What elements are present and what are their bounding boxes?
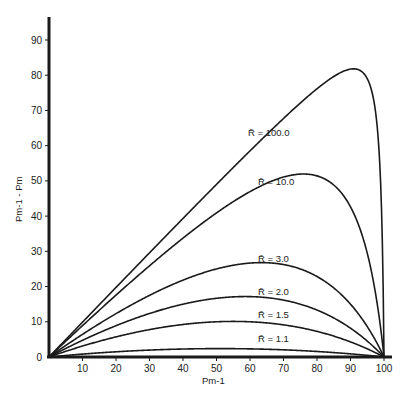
y-tick-label: 80 [31, 70, 43, 81]
x-tick-label: 20 [110, 363, 122, 374]
x-axis-title: Pm-1 [202, 375, 225, 386]
y-tick-label: 50 [31, 175, 43, 186]
curve-label: R̄ = 2.0 [258, 286, 289, 297]
y-tick-label: 40 [31, 211, 43, 222]
y-tick-label: 30 [31, 246, 43, 257]
chart: 102030405060708090100 010203040506070809… [0, 0, 412, 398]
x-tick-label: 50 [211, 363, 223, 374]
x-ticks-group: 102030405060708090100 [77, 357, 393, 374]
x-tick-label: 30 [144, 363, 156, 374]
curve-label: R̄ = 3.0 [258, 253, 289, 264]
y-tick-label: 0 [36, 352, 42, 363]
curve-label: R̄ = 10.0 [258, 176, 294, 187]
curve-r-1-5 [49, 321, 384, 357]
x-tick-label: 70 [278, 363, 290, 374]
y-ticks-group: 0102030405060708090 [31, 35, 49, 363]
curve-label: R̄ = 1.5 [258, 309, 289, 320]
y-tick-label: 60 [31, 140, 43, 151]
x-tick-label: 100 [376, 363, 393, 374]
x-tick-label: 40 [177, 363, 189, 374]
y-tick-label: 20 [31, 281, 43, 292]
axes-group [47, 17, 392, 358]
x-tick-label: 10 [77, 363, 89, 374]
x-tick-label: 60 [244, 363, 256, 374]
y-axis-title: Pm-1 - Pm [13, 177, 24, 222]
y-tick-label: 90 [31, 35, 43, 46]
curve-r-10 [49, 174, 384, 357]
curve-label: R̄ = 1.1 [258, 333, 289, 344]
curve-labels-group: R̄ = 1.1R̄ = 1.5R̄ = 2.0R̄ = 3.0R̄ = 10.… [248, 127, 294, 344]
x-tick-label: 90 [345, 363, 357, 374]
curve-label: R̄ = 100.0 [248, 127, 289, 138]
x-tick-label: 80 [311, 363, 323, 374]
y-tick-label: 10 [31, 316, 43, 327]
y-tick-label: 70 [31, 105, 43, 116]
curves-group [49, 69, 384, 357]
